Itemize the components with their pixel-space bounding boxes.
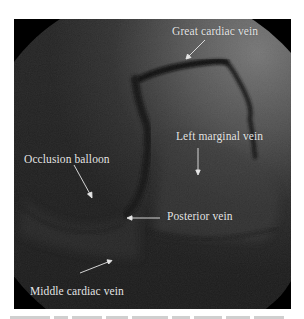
label-middle-cardiac-vein: Middle cardiac vein <box>30 285 124 297</box>
angiogram-figure: Great cardiac vein Left marginal vein Oc… <box>14 19 291 309</box>
label-great-cardiac-vein: Great cardiac vein <box>172 25 258 37</box>
label-left-marginal-vein: Left marginal vein <box>176 130 263 142</box>
label-posterior-vein: Posterior vein <box>167 210 233 222</box>
label-occlusion-balloon: Occlusion balloon <box>24 153 110 165</box>
